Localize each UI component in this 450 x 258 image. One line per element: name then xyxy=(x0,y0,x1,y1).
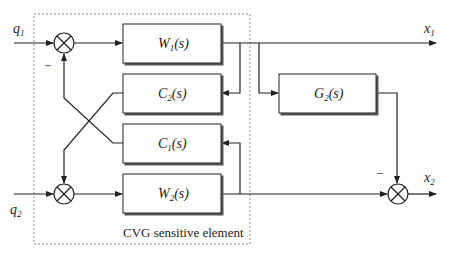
x1-label: x1 xyxy=(423,21,435,38)
sum3-junction xyxy=(388,184,408,204)
sum1-minus-sign: − xyxy=(44,58,51,73)
x2-label: x2 xyxy=(423,170,435,187)
w2-label: W2(s) xyxy=(158,186,189,203)
block-diagram: W1(s) C2(s) C1(s) W2(s) G2(s) q1 q2 x1 x… xyxy=(0,0,450,258)
g2-label: G2(s) xyxy=(314,86,344,103)
w1-to-c2-feedback xyxy=(222,43,240,93)
c1-to-sum1-line xyxy=(64,54,123,143)
group-caption: CVG sensitive element xyxy=(123,225,244,240)
c2-label: C2(s) xyxy=(158,86,187,103)
x1-to-g2-line xyxy=(259,43,278,93)
w2-to-c1-feedback xyxy=(222,143,240,194)
sum1-junction xyxy=(54,33,74,53)
c1-label: C1(s) xyxy=(158,136,187,153)
q2-label: q2 xyxy=(10,202,22,219)
sum3-minus-sign: − xyxy=(376,166,383,181)
sum2-junction xyxy=(54,184,74,204)
q1-label: q1 xyxy=(13,21,25,38)
w1-label: W1(s) xyxy=(158,36,189,53)
